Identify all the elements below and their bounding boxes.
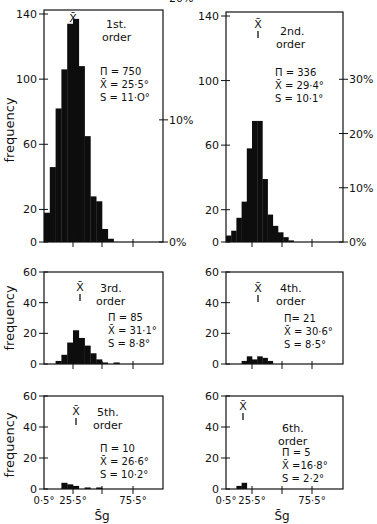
y-tick-label: 20: [23, 452, 37, 465]
y-tick-label: 0: [30, 236, 37, 249]
y-tick-label: 60: [205, 266, 219, 279]
y-axis-label: frequency: [2, 285, 17, 351]
histogram-bar: [79, 338, 85, 364]
y-tick-label: 60: [205, 139, 219, 152]
stat-sd: S = 10·2°: [100, 469, 148, 480]
right-axis-label: 0%: [349, 236, 366, 249]
histogram-bar: [85, 136, 91, 242]
right-axis-label: 0%: [169, 236, 186, 249]
panel-4: 0204060X̄4th.orderΠ= 21X̄ = 30·6°S = 8·5…: [205, 266, 343, 371]
histogram-bar: [273, 226, 279, 242]
histogram-bar: [56, 108, 62, 242]
y-tick-label: 0: [212, 358, 219, 371]
histogram-bar: [79, 66, 85, 242]
panel-1: 020601001400%10%20%frequencyX̄1st.orderΠ…: [2, 0, 193, 249]
panel-title-order-number: 5th.: [97, 406, 119, 419]
y-tick-label: 140: [16, 8, 37, 21]
histogram-bar: [61, 69, 67, 242]
y-tick-label: 20: [205, 327, 219, 340]
panel-title-order-word: order: [96, 295, 126, 308]
y-tick-label: 40: [23, 297, 37, 310]
panel-title-order-word: order: [93, 419, 123, 432]
histogram-bar: [90, 196, 96, 242]
x-tick-label: 25·5°: [238, 495, 265, 506]
histogram-bar: [231, 231, 237, 242]
stat-n: Π= 21: [284, 313, 316, 324]
x-axis-label: S̄g: [94, 509, 109, 523]
panel-title-order-number: 2nd.: [280, 25, 304, 38]
histogram-bar: [252, 359, 258, 364]
histogram-bar: [67, 24, 73, 242]
panel-5: 0204060frequencyX̄5th.orderΠ = 10X̄ = 26…: [2, 390, 163, 523]
mean-marker-label: X̄: [76, 281, 84, 294]
histogram-figure: 020601001400%10%20%frequencyX̄1st.orderΠ…: [0, 0, 377, 524]
histogram-bar: [268, 215, 274, 242]
stat-n: Π = 5: [282, 447, 311, 458]
y-tick-label: 0: [212, 236, 219, 249]
histogram-bar: [50, 167, 56, 242]
histogram-bar: [252, 121, 258, 242]
y-tick-label: 60: [205, 390, 219, 403]
histogram-bar: [73, 19, 79, 242]
x-tick-label: 0·5°: [216, 495, 237, 506]
panel-title-order-number: 6th.: [282, 422, 304, 435]
histogram-bar: [283, 237, 289, 242]
y-tick-label: 40: [205, 297, 219, 310]
histogram-bar: [262, 358, 268, 364]
histogram-bar: [102, 229, 108, 242]
x-axis-label: S̄g: [274, 509, 289, 523]
histogram-bar: [73, 330, 79, 364]
x-tick-label: 0·5°: [34, 495, 55, 506]
histogram-bar: [96, 359, 102, 364]
stat-mean: X̄ = 25·5°: [100, 78, 149, 90]
y-tick-label: 20: [23, 327, 37, 340]
histogram-bar: [257, 121, 263, 242]
stat-mean: X̄ =16·8°: [282, 459, 328, 471]
y-tick-label: 40: [23, 421, 37, 434]
histogram-bar: [44, 213, 50, 242]
panel-title-order-number: 1st.: [106, 18, 127, 31]
y-tick-label: 40: [205, 421, 219, 434]
stat-sd: S = 11·O°: [100, 92, 150, 103]
histogram-bar: [67, 484, 73, 489]
histogram-bar: [247, 148, 253, 242]
right-axis-label: 20%: [169, 0, 193, 5]
stat-n: Π = 336: [275, 67, 316, 78]
y-tick-label: 100: [16, 73, 37, 86]
stat-sd: S = 8·8°: [108, 338, 150, 349]
mean-marker-label: X̄: [254, 282, 262, 295]
mean-marker-label: X̄: [254, 18, 262, 31]
histogram-bar: [90, 353, 96, 364]
y-tick-label: 0: [30, 358, 37, 371]
y-tick-label: 20: [23, 203, 37, 216]
histogram-bar: [247, 356, 253, 364]
y-tick-label: 20: [205, 204, 219, 217]
histogram-bar: [242, 483, 248, 489]
stat-sd: S = 8·5°: [284, 339, 326, 350]
stat-sd: S = 10·1°: [275, 93, 323, 104]
right-axis-label: 30%: [349, 73, 373, 86]
histogram-bar: [67, 343, 73, 364]
stat-n: Π = 85: [108, 312, 143, 323]
histogram-bar: [278, 232, 284, 242]
histogram-bar: [61, 483, 67, 489]
y-axis-label: frequency: [2, 412, 17, 478]
histogram-bar: [85, 346, 91, 364]
x-tick-label: 75·5°: [298, 495, 325, 506]
histogram-bar: [242, 202, 248, 242]
stat-sd: S = 2·2°: [282, 473, 324, 484]
panel-title-order-word: order: [102, 31, 132, 44]
stat-mean: X̄ = 30·6°: [284, 325, 333, 337]
histogram-bar: [262, 179, 268, 242]
y-tick-label: 140: [198, 10, 219, 23]
y-tick-label: 60: [23, 266, 37, 279]
stat-mean: X̄ = 26·6°: [100, 455, 149, 467]
panel-2: 020601001400%10%20%30%X̄2nd.orderΠ = 336…: [198, 10, 373, 249]
right-axis-label: 20%: [349, 128, 373, 141]
panel-title-order-word: order: [276, 295, 306, 308]
stat-mean: X̄ = 29·4°: [275, 79, 324, 91]
mean-marker-label: X̄: [239, 400, 247, 413]
histogram-bar: [96, 201, 102, 242]
y-tick-label: 60: [23, 138, 37, 151]
x-tick-label: 75·5°: [119, 495, 146, 506]
